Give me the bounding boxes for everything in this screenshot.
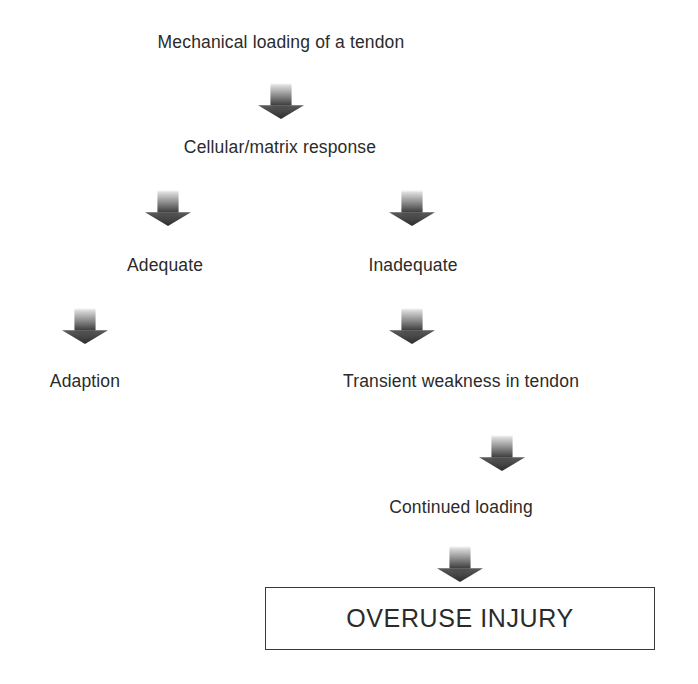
down-arrow-icon xyxy=(258,83,304,119)
flow-node-transient-weakness: Transient weakness in tendon xyxy=(343,371,579,392)
flow-node-label: Continued loading xyxy=(389,497,533,517)
flow-node-mechanical-loading: Mechanical loading of a tendon xyxy=(158,32,405,53)
down-arrow-icon xyxy=(62,308,108,344)
flow-node-label: Transient weakness in tendon xyxy=(343,371,579,391)
down-arrow-icon xyxy=(479,435,525,471)
flowchart-canvas: Mechanical loading of a tendon Cellular/… xyxy=(0,0,698,684)
flow-node-adequate: Adequate xyxy=(127,255,203,276)
down-arrow-icon xyxy=(145,190,191,226)
down-arrow-icon xyxy=(437,546,483,582)
flow-node-label: OVERUSE INJURY xyxy=(346,604,573,633)
flow-node-continued-loading: Continued loading xyxy=(389,497,533,518)
down-arrow-icon xyxy=(389,308,435,344)
flow-node-cellular-matrix-response: Cellular/matrix response xyxy=(184,137,376,158)
flow-node-label: Adaption xyxy=(50,371,120,391)
flow-node-inadequate: Inadequate xyxy=(368,255,457,276)
flow-node-adaption: Adaption xyxy=(50,371,120,392)
flow-node-label: Inadequate xyxy=(368,255,457,275)
flow-node-label: Mechanical loading of a tendon xyxy=(158,32,405,52)
flow-node-label: Adequate xyxy=(127,255,203,275)
down-arrow-icon xyxy=(389,190,435,226)
flow-node-overuse-injury-box: OVERUSE INJURY xyxy=(265,587,655,650)
flow-node-label: Cellular/matrix response xyxy=(184,137,376,157)
